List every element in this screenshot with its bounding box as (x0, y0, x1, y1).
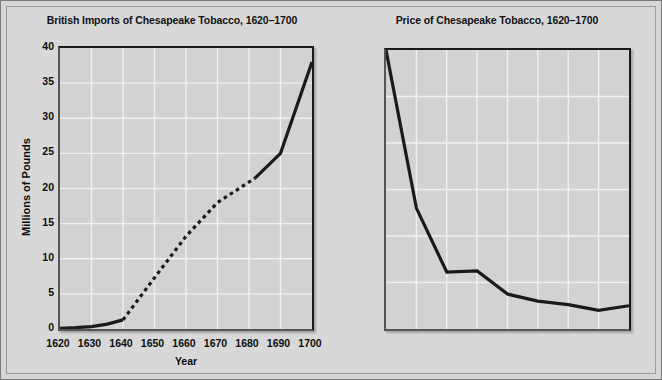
x-tick-label: 1700 (290, 337, 330, 349)
x-axis-ticks-imports: 162016301640165016601670168016901700 (58, 337, 314, 351)
chart-title-imports: British Imports of Chesapeake Tobacco, 1… (7, 14, 337, 26)
plot-area-imports (58, 46, 314, 331)
y-tick-label: 20 (42, 182, 54, 192)
y-tick-label: 40 (42, 41, 54, 51)
data-series-line-2 (255, 62, 312, 178)
chart-panel-imports: British Imports of Chesapeake Tobacco, 1… (7, 7, 337, 375)
figure-container: British Imports of Chesapeake Tobacco, 1… (0, 0, 662, 380)
figure-inner-frame: British Imports of Chesapeake Tobacco, 1… (6, 6, 656, 374)
plot-area-price (384, 48, 631, 331)
y-tick-label: 15 (42, 217, 54, 227)
plot-svg-price (386, 50, 629, 329)
chart-title-price: Price of Chesapeake Tobacco, 1620–1700 (337, 14, 657, 26)
y-tick-label: 30 (42, 111, 54, 121)
y-tick-label: 0 (48, 322, 54, 332)
chart-panel-price: Price of Chesapeake Tobacco, 1620–1700 0… (337, 7, 657, 375)
y-tick-label: 25 (42, 146, 54, 156)
data-series-line-1 (123, 178, 255, 320)
y-axis-label-imports: Millions of Pounds (20, 107, 32, 267)
y-tick-label: 35 (42, 76, 54, 86)
y-tick-label: 10 (42, 252, 54, 262)
plot-svg-imports (60, 48, 312, 329)
y-tick-label: 5 (48, 287, 54, 297)
x-axis-label-imports: Year (58, 355, 314, 367)
